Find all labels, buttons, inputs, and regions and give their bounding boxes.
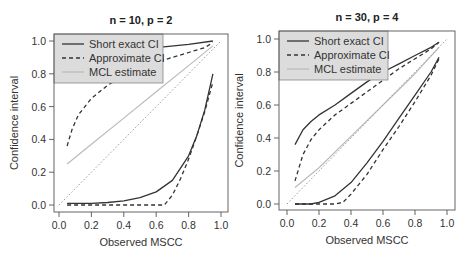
legend-label: Approximate CI <box>314 49 390 61</box>
y-tick-label: 1.0 <box>31 35 46 47</box>
y-tick-label: 0.2 <box>256 165 271 177</box>
x-tick-label: 0.0 <box>52 219 67 231</box>
legend: Short exact CIApproximate CIMCL estimate <box>279 31 390 80</box>
y-tick-label: 0.6 <box>256 99 271 111</box>
x-tick-label: 0.0 <box>280 217 295 229</box>
y-axis-label: Confidence interval <box>233 73 245 167</box>
y-tick-label: 0.2 <box>31 166 46 178</box>
x-axis: 0.00.20.40.60.81.0 <box>280 210 455 229</box>
x-tick-label: 1.0 <box>214 219 229 231</box>
y-tick-label: 0.8 <box>31 68 46 80</box>
y-tick-label: 0.4 <box>256 132 271 144</box>
x-tick-label: 0.2 <box>84 219 99 231</box>
legend-label: Approximate CI <box>89 52 165 64</box>
x-tick-label: 0.6 <box>376 217 391 229</box>
y-tick-label: 0.8 <box>256 66 271 78</box>
chart-title: n = 30, p = 4 <box>336 11 400 23</box>
y-axis: 0.00.20.40.60.81.0 <box>256 33 279 210</box>
chart-title: n = 10, p = 2 <box>110 14 173 26</box>
x-axis-label: Observed MSCC <box>325 234 408 246</box>
x-tick-label: 0.4 <box>116 219 131 231</box>
x-tick-label: 1.0 <box>440 217 455 229</box>
legend-label: MCL estimate <box>314 63 381 75</box>
x-axis: 0.00.20.40.60.81.0 <box>52 212 229 231</box>
y-tick-label: 1.0 <box>256 33 271 45</box>
legend: Short exact CIApproximate CIMCL estimate <box>54 34 165 83</box>
chart-panel-left: n = 10, p = 2Short exact CIApproximate C… <box>8 14 228 248</box>
x-axis-label: Observed MSCC <box>99 236 182 248</box>
x-tick-label: 0.8 <box>408 217 423 229</box>
series-line <box>67 74 213 204</box>
y-tick-label: 0.0 <box>31 199 46 211</box>
chart-panel-right: n = 30, p = 4Short exact CIApproximate C… <box>233 11 455 246</box>
x-tick-label: 0.4 <box>344 217 359 229</box>
x-tick-label: 0.6 <box>149 219 164 231</box>
legend-label: Short exact CI <box>89 38 159 50</box>
y-tick-label: 0.4 <box>31 133 46 145</box>
chart-figure: n = 10, p = 2Short exact CIApproximate C… <box>0 0 465 257</box>
series-line <box>295 59 439 204</box>
y-tick-label: 0.0 <box>256 198 271 210</box>
x-tick-label: 0.8 <box>181 219 196 231</box>
y-axis-label: Confidence interval <box>8 76 20 170</box>
legend-label: Short exact CI <box>314 35 384 47</box>
legend-label: MCL estimate <box>89 66 156 78</box>
y-axis: 0.00.20.40.60.81.0 <box>31 35 54 211</box>
y-tick-label: 0.6 <box>31 101 46 113</box>
x-tick-label: 0.2 <box>312 217 327 229</box>
